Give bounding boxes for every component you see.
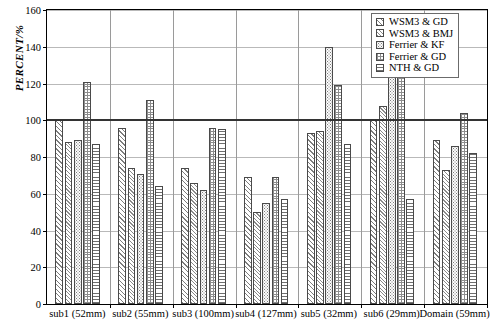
bar-wsm3-gd-6 (370, 120, 378, 304)
bar-nth-gd-2 (155, 186, 163, 304)
bar-ferrier-gd-2 (146, 100, 154, 304)
legend-swatch-icon (376, 41, 384, 49)
bar-ferrier-gd-7 (460, 113, 468, 304)
gridline (47, 84, 487, 85)
legend-item-4: Ferrier & GD (376, 51, 453, 63)
x-axis-tick-label-4: sub4 (127mm) (235, 308, 297, 319)
y-axis-tick-label: 60 (3, 188, 47, 199)
group-separator (173, 10, 174, 304)
x-axis-tick-mark (298, 304, 299, 308)
legend-label: Ferrier & GD (389, 51, 446, 63)
y-axis-tick-label: 100 (3, 115, 47, 126)
bar-ferrier-kf-3 (200, 190, 208, 304)
legend-label: WSM3 & BMJ (389, 28, 453, 40)
bar-ferrier-kf-2 (137, 174, 145, 304)
bar-wsm3-bmj-4 (253, 212, 261, 304)
y-axis-tick-mark (43, 304, 47, 305)
bar-nth-gd-6 (406, 199, 414, 304)
y-axis-title: PERCENT/% (13, 3, 25, 113)
bar-wsm3-gd-5 (307, 133, 315, 304)
x-axis-tick-label-1: sub1 (52mm) (49, 308, 105, 319)
legend-label: WSM3 & GD (389, 16, 448, 28)
gridline (47, 194, 487, 195)
bar-ferrier-gd-3 (209, 128, 217, 304)
bar-wsm3-gd-4 (244, 177, 252, 304)
bar-ferrier-kf-7 (451, 146, 459, 304)
legend-swatch-icon (376, 64, 384, 72)
bar-nth-gd-4 (281, 199, 289, 304)
y-axis-tick-mark (43, 157, 47, 158)
y-axis-tick-mark (43, 194, 47, 195)
x-axis-tick-label-3: sub3 (100mm) (172, 308, 234, 319)
y-axis-tick-label: 160 (3, 5, 47, 16)
x-axis-tick-label-7: Domain (59mm) (419, 308, 489, 319)
x-axis-tick-mark (361, 304, 362, 308)
bar-nth-gd-5 (344, 144, 352, 304)
bar-wsm3-gd-3 (181, 168, 189, 304)
x-axis-tick-label-5: sub5 (32mm) (301, 308, 357, 319)
legend-item-2: WSM3 & BMJ (376, 28, 453, 40)
bar-nth-gd-7 (469, 153, 477, 304)
y-axis-tick-label: 40 (3, 225, 47, 236)
bar-wsm3-gd-2 (118, 128, 126, 304)
bar-wsm3-gd-7 (433, 140, 441, 304)
bar-wsm3-bmj-6 (379, 106, 387, 304)
y-axis-tick-mark (43, 84, 47, 85)
bar-nth-gd-1 (92, 144, 100, 304)
legend-item-3: Ferrier & KF (376, 39, 453, 51)
bar-ferrier-gd-6 (397, 72, 405, 304)
bar-ferrier-kf-6 (388, 50, 396, 304)
legend-label: NTH & GD (389, 62, 439, 74)
y-axis-tick-mark (43, 267, 47, 268)
bar-ferrier-gd-5 (334, 85, 342, 304)
bar-ferrier-kf-1 (74, 140, 82, 304)
y-axis-tick-mark (43, 10, 47, 11)
bar-ferrier-kf-5 (325, 47, 333, 304)
bar-wsm3-gd-1 (55, 120, 63, 304)
legend-item-1: WSM3 & GD (376, 16, 453, 28)
y-axis-tick-label: 0 (3, 299, 47, 310)
gridline (47, 157, 487, 158)
y-axis-tick-label: 140 (3, 41, 47, 52)
bar-wsm3-bmj-2 (128, 168, 136, 304)
y-axis-tick-mark (43, 47, 47, 48)
bar-chart: PERCENT/% 020406080100120140160 sub1 (52… (0, 0, 496, 331)
group-separator (361, 10, 362, 304)
legend-swatch-icon (376, 53, 384, 61)
legend: WSM3 & GDWSM3 & BMJFerrier & KFFerrier &… (371, 13, 459, 78)
reference-line-100 (47, 119, 487, 121)
gridline (47, 10, 487, 11)
y-axis-tick-label: 80 (3, 152, 47, 163)
x-axis-tick-label-2: sub2 (55mm) (112, 308, 168, 319)
y-axis-tick-label: 120 (3, 78, 47, 89)
legend-swatch-icon (376, 18, 384, 26)
bar-ferrier-gd-1 (83, 82, 91, 304)
y-axis-tick-label: 20 (3, 262, 47, 273)
group-separator (298, 10, 299, 304)
x-axis-tick-label-6: sub6 (29mm) (364, 308, 420, 319)
bar-nth-gd-3 (218, 129, 226, 304)
bar-wsm3-bmj-1 (65, 142, 73, 304)
legend-item-5: NTH & GD (376, 62, 453, 74)
y-axis-tick-mark (43, 231, 47, 232)
bar-ferrier-gd-4 (272, 177, 280, 304)
legend-swatch-icon (376, 29, 384, 37)
legend-label: Ferrier & KF (389, 39, 444, 51)
bar-wsm3-bmj-5 (316, 131, 324, 304)
group-separator (236, 10, 237, 304)
x-axis-tick-mark (110, 304, 111, 308)
group-separator (110, 10, 111, 304)
bar-wsm3-bmj-7 (442, 170, 450, 304)
bar-wsm3-bmj-3 (190, 183, 198, 304)
bar-ferrier-kf-4 (262, 203, 270, 304)
